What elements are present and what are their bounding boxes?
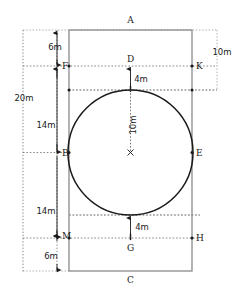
dim-label-radius-10m: 10m: [128, 115, 138, 134]
point-marker-E: [191, 151, 194, 154]
dim-label-total-20m: 20m: [14, 93, 33, 103]
label-point-C: C: [127, 275, 134, 285]
label-point-A: A: [126, 15, 134, 25]
dim-label-upper-14m: 14m: [36, 120, 55, 130]
dim-label-lower-14m: 14m: [36, 206, 55, 216]
label-point-M: M: [62, 231, 71, 241]
dim-label-right-10m: 10m: [212, 47, 231, 57]
label-point-B: B: [62, 148, 69, 158]
dim-label-bottom-6m: 6m: [44, 251, 58, 261]
label-point-F: F: [62, 61, 68, 71]
label-point-E: E: [196, 148, 203, 158]
point-marker-K: [191, 65, 194, 68]
point-marker-tangent-top-left: [68, 89, 71, 92]
label-point-D: D: [127, 54, 134, 64]
label-point-G: G: [127, 243, 134, 253]
dimension-diagram: A C B E F K M H D G 6m 10m 4m 14m 10m 20…: [0, 0, 238, 298]
label-point-H: H: [196, 233, 204, 243]
point-marker-tangent-top-right: [191, 89, 194, 92]
dim-label-bottom-gap-4m: 4m: [135, 222, 149, 232]
point-marker-H: [191, 237, 194, 240]
diagram-canvas: A C B E F K M H D G 6m 10m 4m 14m 10m 20…: [0, 0, 238, 298]
dim-label-top-6m: 6m: [48, 42, 62, 52]
label-point-K: K: [196, 61, 203, 71]
dim-label-top-gap-4m: 4m: [134, 74, 148, 84]
